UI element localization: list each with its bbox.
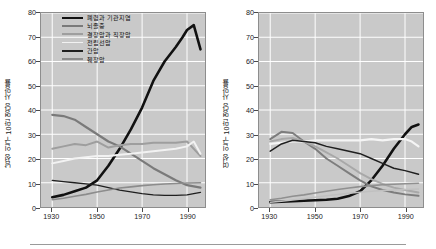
legend-color-swatch <box>62 42 83 44</box>
x-tick-mark <box>97 208 98 212</box>
legend-item: 뇌졸중 <box>62 22 132 29</box>
x-axis-labels-female: 1930195019701990 <box>258 210 424 228</box>
legend-color-swatch <box>62 58 83 59</box>
x-tick-mark <box>269 208 270 212</box>
y-axis-title-female: 여성 인구 10만 명당 사망률 <box>220 48 234 198</box>
x-tick-label: 1970 <box>352 212 368 221</box>
y-tick-mark <box>254 159 258 160</box>
series-line <box>52 115 200 188</box>
y-tick-mark <box>254 184 258 185</box>
x-tick-mark <box>360 208 361 212</box>
y-tick-mark <box>36 208 40 209</box>
y-tick-mark <box>254 37 258 38</box>
y-tick-label: 70 <box>246 32 254 41</box>
y-tick-label: 40 <box>246 106 254 115</box>
y-tick-label: 80 <box>246 8 254 17</box>
legend-item: 결장암과 직장암 <box>62 31 132 38</box>
y-tick-mark <box>254 61 258 62</box>
y-tick-label: 10 <box>246 179 254 188</box>
y-tick-mark <box>254 135 258 136</box>
legend-color-swatch <box>62 25 83 27</box>
y-tick-label: 50 <box>246 81 254 90</box>
y-tick-label: 30 <box>246 130 254 139</box>
legend-label: 폐렴과 기관지염 <box>87 14 132 21</box>
y-tick-mark <box>36 37 40 38</box>
y-tick-label: 50 <box>28 81 36 90</box>
y-tick-mark <box>254 86 258 87</box>
legend-label: 췌장암 <box>87 56 105 63</box>
y-tick-mark <box>36 135 40 136</box>
x-tick-label: 1930 <box>43 212 59 221</box>
x-tick-label: 1950 <box>307 212 323 221</box>
chart-panel-female: 여성 인구 10만 명당 사망률 01020304050607080 19301… <box>218 0 436 232</box>
x-tick-label: 1990 <box>398 212 414 221</box>
y-tick-label: 60 <box>246 57 254 66</box>
y-tick-mark <box>36 61 40 62</box>
gridlines-female <box>259 13 423 207</box>
y-tick-mark <box>36 184 40 185</box>
y-tick-label: 20 <box>246 155 254 164</box>
y-tick-mark <box>36 110 40 111</box>
plot-area-female <box>258 12 424 208</box>
x-tick-mark <box>142 208 143 212</box>
y-tick-mark <box>254 110 258 111</box>
legend-color-swatch <box>62 50 83 51</box>
y-tick-label: 30 <box>28 130 36 139</box>
y-axis-title-male: 남성 인구 10만 명당 사망률 <box>2 48 16 198</box>
x-tick-mark <box>51 208 52 212</box>
legend-label: 간암 <box>87 47 99 54</box>
y-tick-label: 80 <box>28 8 36 17</box>
chart-panel-male: 남성 인구 10만 명당 사망률 01020304050607080 19301… <box>0 0 218 232</box>
x-tick-mark <box>406 208 407 212</box>
dual-line-chart-figure: 남성 인구 10만 명당 사망률 01020304050607080 19301… <box>0 0 436 249</box>
y-tick-mark <box>254 12 258 13</box>
legend-item: 전립선암 <box>62 39 132 46</box>
y-tick-mark <box>36 86 40 87</box>
series-lines-female <box>270 125 418 203</box>
chart-panels: 남성 인구 10만 명당 사망률 01020304050607080 19301… <box>0 0 436 232</box>
legend-item: 폐렴과 기관지염 <box>62 14 132 21</box>
y-axis-labels-male: 01020304050607080 <box>16 12 38 208</box>
x-tick-label: 1970 <box>134 212 150 221</box>
y-tick-label: 70 <box>28 32 36 41</box>
footer-rule <box>30 244 406 245</box>
x-tick-label: 1950 <box>89 212 105 221</box>
y-tick-mark <box>36 159 40 160</box>
legend-label: 전립선암 <box>87 39 111 46</box>
y-tick-label: 60 <box>28 57 36 66</box>
y-axis-labels-female: 01020304050607080 <box>234 12 256 208</box>
y-tick-label: 10 <box>28 179 36 188</box>
x-tick-label: 1990 <box>180 212 196 221</box>
y-tick-mark <box>254 208 258 209</box>
y-tick-label: 40 <box>28 106 36 115</box>
legend-color-swatch <box>62 17 83 19</box>
legend-color-swatch <box>62 33 83 35</box>
legend-label: 결장암과 직장암 <box>87 31 132 38</box>
y-tick-mark <box>36 12 40 13</box>
legend-male: 폐렴과 기관지염뇌졸중결장암과 직장암전립선암간암췌장암 <box>62 14 132 64</box>
x-tick-label: 1930 <box>261 212 277 221</box>
legend-label: 뇌졸중 <box>87 22 105 29</box>
legend-item: 췌장암 <box>62 55 132 62</box>
x-tick-mark <box>315 208 316 212</box>
legend-item: 간암 <box>62 47 132 54</box>
x-tick-mark <box>188 208 189 212</box>
y-tick-label: 20 <box>28 155 36 164</box>
x-axis-labels-male: 1930195019701990 <box>40 210 206 228</box>
plot-svg-female <box>259 13 423 207</box>
